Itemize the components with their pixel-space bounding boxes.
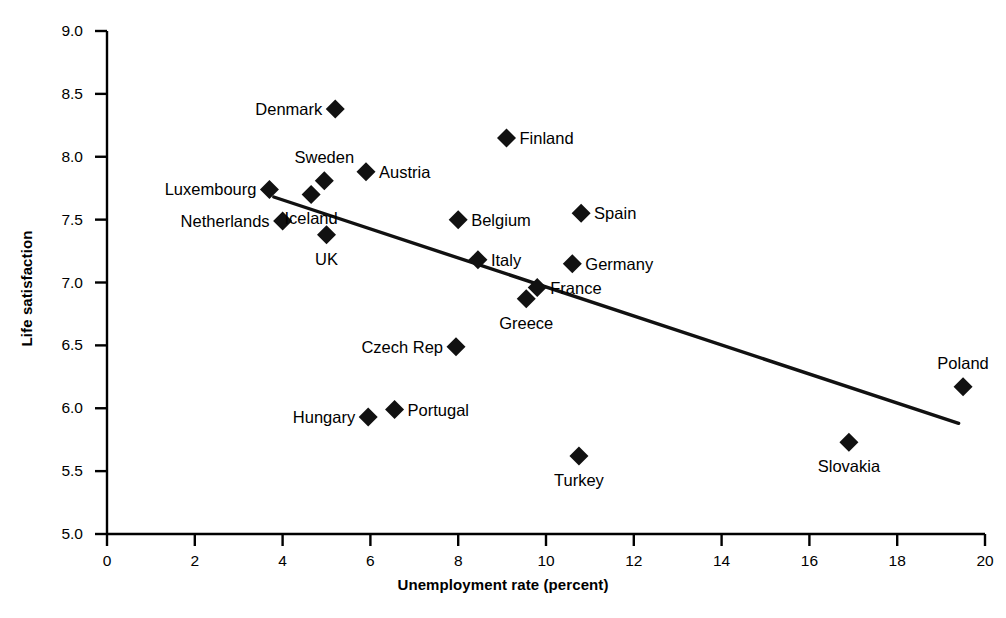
y-tick-label: 8.5 (37, 85, 83, 103)
x-tick-label: 18 (877, 552, 917, 570)
data-point-label: Poland (937, 355, 988, 372)
data-point-marker (302, 185, 321, 204)
x-tick-label: 20 (965, 552, 1005, 570)
x-tick-label: 12 (614, 552, 654, 570)
data-point-label: Sweden (294, 148, 354, 165)
data-point-label: Denmark (255, 101, 322, 118)
data-point-marker (449, 210, 468, 229)
x-tick-label: 10 (526, 552, 566, 570)
data-point-label: Turkey (554, 472, 604, 489)
data-point-marker (385, 400, 404, 419)
x-tick-label: 14 (702, 552, 742, 570)
data-point-label: Iceland (285, 210, 338, 227)
x-tick-label: 4 (263, 552, 303, 570)
data-point-label: UK (315, 250, 338, 267)
x-tick-label: 8 (438, 552, 478, 570)
trendline (274, 197, 959, 423)
x-tick-label: 0 (87, 552, 127, 570)
data-point-marker (497, 128, 516, 147)
data-point-label: Czech Rep (361, 338, 443, 355)
scatter-plot-figure: 5.05.56.06.57.07.58.08.59.00246810121416… (0, 0, 1006, 618)
y-tick-label: 9.0 (37, 22, 83, 40)
data-point-marker (569, 447, 588, 466)
data-point-label: Hungary (293, 409, 355, 426)
data-point-label: Finland (519, 130, 573, 147)
y-tick-label: 8.0 (37, 148, 83, 166)
data-point-marker (315, 171, 334, 190)
data-point-label: Netherlands (181, 213, 270, 230)
data-point-marker (839, 433, 858, 452)
data-point-label: Portugal (408, 401, 469, 418)
data-point-marker (954, 377, 973, 396)
x-tick-label: 2 (175, 552, 215, 570)
y-tick-label: 6.5 (37, 336, 83, 354)
plot-canvas (0, 0, 1006, 618)
data-point-label: Austria (379, 164, 430, 181)
x-axis-title: Unemployment rate (percent) (0, 576, 1006, 593)
y-tick-label: 5.0 (37, 525, 83, 543)
data-point-marker (572, 204, 591, 223)
data-point-marker (563, 254, 582, 273)
data-markers (260, 99, 973, 465)
data-point-marker (326, 99, 345, 118)
data-point-marker (359, 408, 378, 427)
y-tick-label: 7.0 (37, 274, 83, 292)
data-point-marker (317, 225, 336, 244)
data-point-label: Belgium (471, 211, 531, 228)
data-point-marker (447, 337, 466, 356)
data-point-label: Luxembourg (165, 181, 257, 198)
data-point-label: Spain (594, 205, 636, 222)
data-point-label: Italy (491, 252, 521, 269)
data-point-label: Germany (585, 255, 653, 272)
x-tick-label: 6 (350, 552, 390, 570)
data-point-label: France (550, 279, 601, 296)
y-tick-label: 7.5 (37, 211, 83, 229)
data-point-marker (357, 162, 376, 181)
y-tick-label: 6.0 (37, 399, 83, 417)
x-tick-label: 16 (789, 552, 829, 570)
y-tick-label: 5.5 (37, 462, 83, 480)
data-point-label: Slovakia (818, 458, 880, 475)
y-axis-title: Life satisfaction (18, 179, 35, 399)
data-point-label: Greece (499, 315, 553, 332)
